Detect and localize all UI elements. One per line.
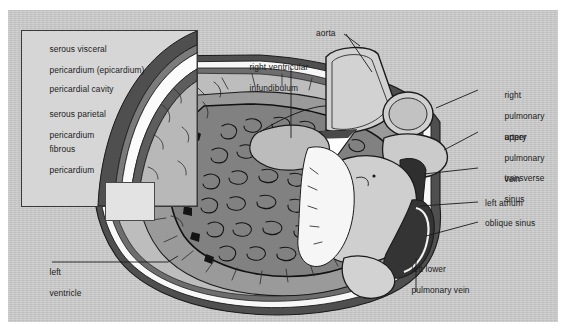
right-pulmonary-artery-lumen xyxy=(389,98,427,130)
label-left-atrium: left atrium xyxy=(485,198,523,208)
label-line: pericardium xyxy=(49,165,94,175)
leader-upv xyxy=(444,132,478,150)
label-line: serous parietal xyxy=(49,109,105,119)
label-left-lower-pulmonary-vein: left lower pulmonary vein xyxy=(392,254,470,306)
left-atrium-dot xyxy=(372,174,375,177)
label-oblique-sinus: oblique sinus xyxy=(485,218,535,228)
label-fibrous-pericardium: fibrous pericardium xyxy=(30,134,94,186)
figure-root: serous visceral pericardium (epicardium)… xyxy=(0,0,569,334)
label-line: right xyxy=(504,90,521,100)
label-right-ventricular-infundibulum: right ventricular infundibulum xyxy=(230,52,308,104)
figure-panel: serous visceral pericardium (epicardium)… xyxy=(8,10,558,322)
label-line: transverse xyxy=(504,173,544,183)
label-line: left xyxy=(49,267,61,277)
label-line: ventricle xyxy=(49,288,81,298)
label-line: upper xyxy=(504,132,526,142)
leader-aorta xyxy=(344,34,360,46)
label-line: pulmonary vein xyxy=(411,285,469,295)
label-line: infundibulum xyxy=(249,83,298,93)
label-line: pulmonary xyxy=(504,111,544,121)
leader-rpa xyxy=(436,90,478,108)
label-line: left lower xyxy=(411,264,446,274)
magnification-callout-box xyxy=(105,182,155,221)
label-line: serous visceral xyxy=(49,44,106,54)
illustration-stage: serous visceral pericardium (epicardium)… xyxy=(8,10,558,322)
label-left-ventricle: left ventricle xyxy=(30,257,82,309)
label-line: pericardial cavity xyxy=(49,84,113,94)
label-line: fibrous xyxy=(49,144,75,154)
label-line: pulmonary xyxy=(504,153,544,163)
label-aorta: aorta xyxy=(316,28,336,38)
label-line: right ventricular xyxy=(249,62,308,72)
